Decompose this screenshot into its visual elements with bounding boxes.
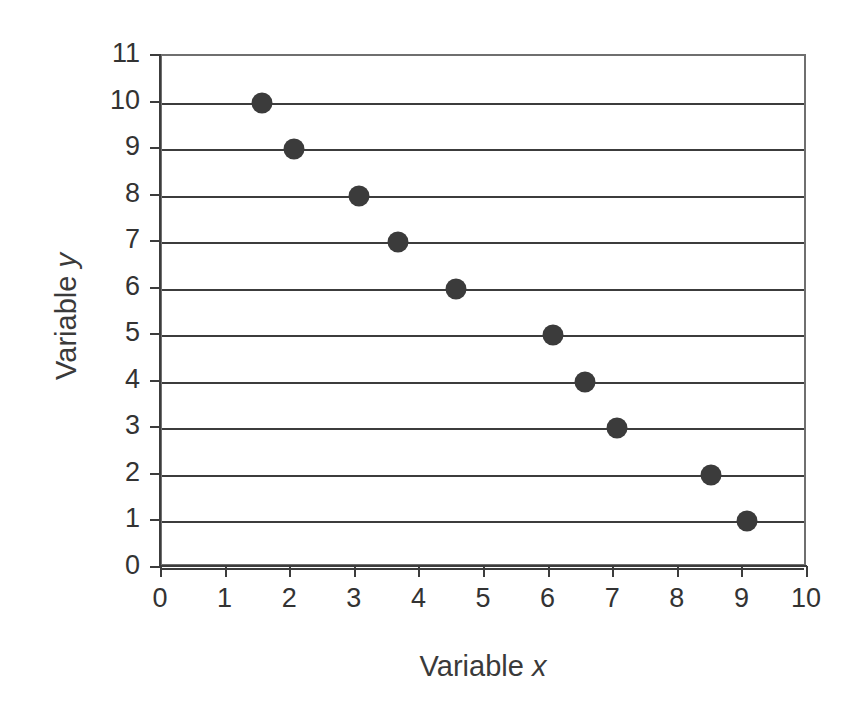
plot-area	[160, 54, 806, 566]
x-axis-tick	[612, 566, 614, 577]
x-axis-tick	[483, 566, 485, 577]
data-point	[445, 278, 466, 299]
data-point	[284, 139, 305, 160]
y-axis-tick	[150, 380, 161, 382]
x-axis-tick	[677, 566, 679, 577]
x-axis-tick	[806, 566, 808, 577]
x-axis-tick-label: 3	[324, 585, 384, 612]
data-point	[542, 325, 563, 346]
y-axis-tick-label: 3	[100, 412, 140, 439]
gridline	[162, 521, 804, 523]
axis-title-symbol: y	[50, 253, 82, 268]
x-axis-tick-label: 10	[776, 585, 836, 612]
axis-title-symbol: x	[532, 650, 547, 682]
x-axis-tick-label: 6	[518, 585, 578, 612]
y-axis-tick-label: 7	[100, 226, 140, 253]
x-axis-tick-label: 1	[195, 585, 255, 612]
y-axis-tick	[150, 519, 161, 521]
x-axis-tick	[225, 566, 227, 577]
data-point	[701, 464, 722, 485]
data-point	[349, 185, 370, 206]
y-axis-tick	[150, 426, 161, 428]
x-axis-tick-label: 4	[388, 585, 448, 612]
y-axis-tick-label: 6	[100, 273, 140, 300]
gridline	[162, 428, 804, 430]
x-axis-tick	[160, 566, 162, 577]
scatter-chart: 01234567891011 012345678910 Variable x V…	[0, 0, 853, 726]
x-axis-tick	[289, 566, 291, 577]
x-axis-tick	[741, 566, 743, 577]
data-point	[736, 511, 757, 532]
data-point	[387, 232, 408, 253]
data-point	[575, 371, 596, 392]
x-axis-tick-label: 2	[259, 585, 319, 612]
data-point	[252, 92, 273, 113]
y-axis-tick	[150, 54, 161, 56]
gridline	[162, 196, 804, 198]
y-axis-tick	[150, 333, 161, 335]
y-axis-line	[159, 54, 161, 568]
x-axis-tick	[548, 566, 550, 577]
axis-title-text: Variable	[50, 268, 82, 380]
y-axis-tick	[150, 240, 161, 242]
gridline	[162, 382, 804, 384]
y-axis-tick	[150, 147, 161, 149]
y-axis-tick-label: 0	[100, 552, 140, 579]
gridline	[162, 289, 804, 291]
y-axis-tick-label: 5	[100, 319, 140, 346]
y-axis-tick-label: 1	[100, 505, 140, 532]
x-axis-tick	[354, 566, 356, 577]
y-axis-tick-label: 8	[100, 180, 140, 207]
x-axis-tick	[418, 566, 420, 577]
gridline	[162, 149, 804, 151]
x-axis-tick-label: 9	[711, 585, 771, 612]
x-axis-tick-label: 5	[453, 585, 513, 612]
y-axis-tick	[150, 101, 161, 103]
x-axis-tick-label: 8	[647, 585, 707, 612]
data-point	[607, 418, 628, 439]
y-axis-title: Variable y	[50, 61, 83, 573]
axis-title-text: Variable	[420, 650, 532, 682]
gridline	[162, 242, 804, 244]
y-axis-tick	[150, 287, 161, 289]
y-axis-tick-label: 4	[100, 366, 140, 393]
y-axis-tick-label: 10	[100, 87, 140, 114]
y-axis-tick	[150, 473, 161, 475]
x-axis-tick-label: 7	[582, 585, 642, 612]
gridline	[162, 335, 804, 337]
x-axis-tick-label: 0	[130, 585, 190, 612]
y-axis-tick-label: 9	[100, 133, 140, 160]
x-axis-title: Variable x	[160, 650, 806, 683]
y-axis-tick	[150, 194, 161, 196]
y-axis-tick-label: 11	[100, 40, 140, 67]
y-axis-tick-label: 2	[100, 459, 140, 486]
